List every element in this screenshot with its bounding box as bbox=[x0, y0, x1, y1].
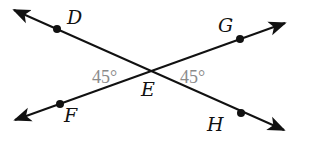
diagram-canvas: D G E F H 45° 45° bbox=[0, 0, 312, 148]
line-FG bbox=[15, 23, 285, 120]
label-H: H bbox=[206, 113, 224, 135]
label-D: D bbox=[66, 6, 82, 28]
angle-label-left: 45° bbox=[92, 67, 117, 87]
label-F: F bbox=[63, 104, 78, 126]
point-H bbox=[237, 109, 245, 117]
point-F bbox=[56, 100, 64, 108]
point-D bbox=[53, 25, 61, 33]
label-G: G bbox=[218, 14, 233, 36]
angle-label-right: 45° bbox=[180, 67, 205, 87]
label-E: E bbox=[140, 78, 155, 100]
point-G bbox=[236, 35, 244, 43]
intersecting-lines-diagram: D G E F H 45° 45° bbox=[0, 0, 312, 148]
